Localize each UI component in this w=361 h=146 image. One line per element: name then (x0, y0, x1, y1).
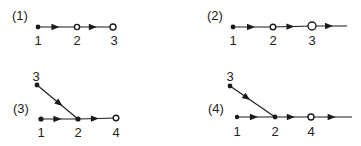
arrowhead-icon (247, 24, 255, 30)
open-node-icon (113, 115, 119, 121)
filled-node-icon (273, 115, 278, 120)
p4-node-label: 2 (271, 125, 278, 138)
arrowhead-icon (286, 23, 294, 29)
panel-label-1: (1) (12, 9, 28, 22)
p1-node-label: 1 (34, 34, 41, 47)
edge-line (230, 86, 275, 117)
p4-node-label: 4 (307, 125, 314, 138)
p3-node-label: 3 (32, 70, 39, 83)
p3-node-label: 1 (37, 126, 44, 139)
panel-label-3: (3) (13, 102, 29, 115)
p1-node-label: 2 (73, 34, 80, 47)
arrowhead-icon (53, 116, 61, 122)
arrowhead-icon (250, 114, 258, 120)
filled-node-icon (38, 116, 43, 121)
filled-node-icon (75, 116, 80, 121)
p2-node-label: 2 (269, 34, 276, 47)
arrowhead-icon (51, 24, 59, 30)
panel-label-4: (4) (208, 102, 224, 115)
p3-node-label: 2 (74, 126, 81, 139)
diagram-canvas: (1) (2) (3) (4) 1 2 3 1 2 3 3 1 2 4 3 1 … (0, 0, 361, 146)
filled-node-icon (228, 84, 233, 89)
open-node-icon (270, 24, 276, 30)
p1-node-label: 3 (110, 34, 117, 47)
open-node-icon (308, 22, 316, 30)
arrowhead-icon (91, 115, 99, 121)
p2-node-label: 3 (308, 34, 315, 47)
p4-node-label: 1 (233, 125, 240, 138)
p4-node-label: 3 (226, 70, 233, 83)
arrowhead-icon (89, 24, 97, 30)
filled-node-icon (235, 115, 239, 119)
open-node-icon (308, 114, 314, 120)
filled-node-icon (231, 25, 236, 30)
arrowhead-icon (287, 114, 295, 120)
filled-node-icon (36, 25, 41, 30)
arrowhead-icon (325, 23, 333, 29)
panel-label-2: (2) (207, 9, 223, 22)
arrowhead-icon (328, 114, 336, 120)
arrowhead-icon (242, 93, 250, 100)
p3-node-label: 4 (112, 126, 119, 139)
p2-node-label: 1 (229, 34, 236, 47)
open-node-icon (110, 24, 116, 30)
open-node-icon (74, 24, 79, 29)
